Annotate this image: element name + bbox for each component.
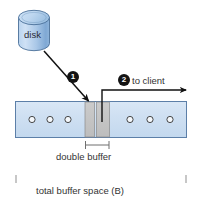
- step-1-badge: 1: [67, 71, 79, 83]
- double-buffer-segment-b: [97, 102, 110, 137]
- to-client-label: to client: [132, 76, 165, 86]
- disk-label: disk: [24, 30, 41, 40]
- buffer-bar: [16, 102, 187, 138]
- double-buffer-dimension: [86, 141, 110, 149]
- total-buffer-space-label: total buffer space (B): [36, 186, 124, 196]
- total-buffer-space-dimension: [16, 175, 186, 183]
- step-2-badge: 2: [118, 74, 130, 86]
- double-buffer-label: double buffer: [56, 152, 111, 162]
- double-buffer-segment-a: [85, 102, 95, 137]
- double-buffer-segments: [85, 102, 110, 137]
- diagram-canvas: disk 1 2 to client double buffer total b…: [0, 0, 200, 210]
